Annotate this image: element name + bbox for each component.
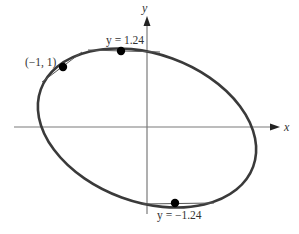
label-top-tangent: y = 1.24	[106, 34, 144, 47]
point-given	[59, 63, 67, 71]
x-axis-label: x	[283, 120, 290, 134]
point-bottom	[171, 199, 179, 207]
ellipse-diagram: x y y = 1.24 (−1, 1) y = −1.24	[0, 0, 299, 234]
y-axis-arrow-icon	[144, 16, 151, 26]
label-given-point: (−1, 1)	[25, 56, 57, 69]
label-bottom-tangent: y = −1.24	[157, 209, 202, 222]
y-axis	[144, 16, 151, 214]
y-axis-label: y	[141, 1, 148, 15]
point-top	[117, 47, 125, 55]
x-axis-arrow-icon	[270, 124, 280, 131]
